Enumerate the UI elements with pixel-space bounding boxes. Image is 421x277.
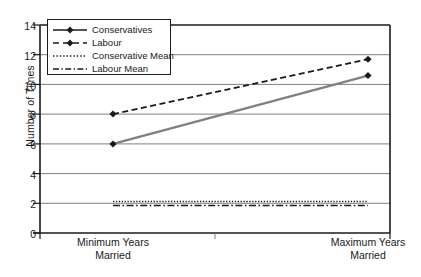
legend-item-conservatives: Conservatives: [52, 23, 166, 36]
legend-item-labour-mean: Labour Mean: [52, 62, 166, 75]
x-tick-label-line2: Married: [308, 249, 421, 262]
x-tick-label-maximum: Maximum Years Married: [308, 236, 421, 261]
legend-swatch-conservatives: [52, 24, 88, 36]
legend-item-conservative-mean: Conservative Mean: [52, 49, 166, 62]
legend-label-conservative-mean: Conservative Mean: [92, 50, 174, 61]
legend-label-labour: Labour: [92, 37, 122, 48]
line-chart: Number of Times 0 2 4 6 8 10 12 14: [0, 0, 421, 277]
x-tick-label-line1: Minimum Years: [53, 236, 173, 249]
y-tick-marks: [33, 25, 40, 233]
legend-swatch-labour: [52, 37, 88, 49]
x-tick-label-minimum: Minimum Years Married: [53, 236, 173, 261]
legend-label-conservatives: Conservatives: [92, 24, 152, 35]
legend-label-labour-mean: Labour Mean: [92, 63, 148, 74]
legend: Conservatives Labour Conservative Mean L…: [47, 19, 171, 75]
legend-swatch-labour-mean: [52, 63, 88, 75]
x-axis-tick-labels: Minimum Years Married Maximum Years Marr…: [0, 236, 421, 276]
legend-swatch-conservative-mean: [52, 50, 88, 62]
x-tick-label-line2: Married: [53, 249, 173, 262]
legend-item-labour: Labour: [52, 36, 166, 49]
gridlines: [40, 55, 390, 204]
x-tick-label-line1: Maximum Years: [308, 236, 421, 249]
series-line-conservatives: [113, 76, 368, 144]
